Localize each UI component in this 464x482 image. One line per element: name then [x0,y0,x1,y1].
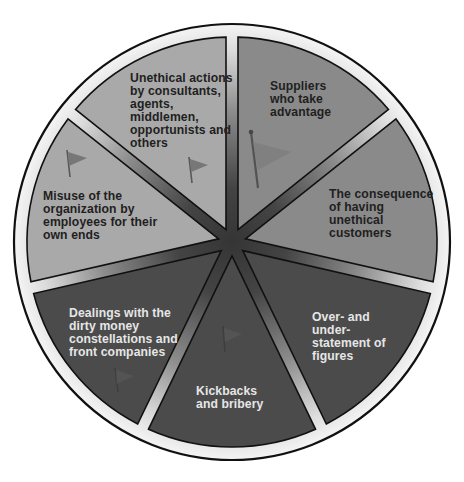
segment-label-kickbacks: Kickbacks and bribery [196,385,263,411]
segment-label-suppliers: Suppliers who take advantage [270,80,331,119]
segment-label-employee-misuse: Misuse of the organization by employees … [43,190,157,242]
segment-label-dirty-money: Dealings with the dirty money constellat… [69,307,178,359]
segment-label-unethical-customers: The consequence of having unethical cust… [329,188,433,240]
segment-label-over-under-statement: Over- and under- statement of figures [312,311,386,363]
segment-label-third-parties: Unethical actions by consultants, agents… [130,72,233,150]
